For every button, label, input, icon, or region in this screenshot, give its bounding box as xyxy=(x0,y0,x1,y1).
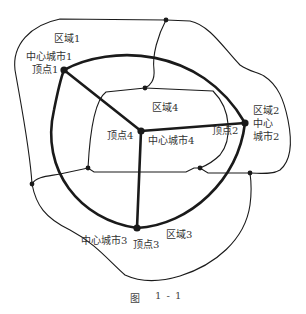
vertex-4-node xyxy=(137,127,144,134)
boundary-node-right xyxy=(248,171,253,176)
city-2-label-line1: 中心 xyxy=(253,118,273,130)
boundary-node-region4 xyxy=(143,86,148,91)
boundary-node-top xyxy=(164,18,169,23)
region-3-label: 区域3 xyxy=(166,229,192,241)
diagram-canvas xyxy=(0,0,306,314)
boundary-top-to-region4 xyxy=(145,20,166,88)
vertex-1-node xyxy=(60,66,67,73)
vertex-1-label: 顶点1 xyxy=(32,64,58,76)
boundary-node-lower-right xyxy=(198,166,203,171)
edge-vertex1-vertex4 xyxy=(64,70,141,131)
city-2-label-line2: 城市2 xyxy=(253,131,279,143)
boundary-node-left xyxy=(30,182,35,187)
city-3-label: 中心城市3 xyxy=(81,235,127,247)
figure-caption-label: 图 xyxy=(130,290,141,305)
region-4-label: 区域4 xyxy=(152,102,178,114)
vertex-2-node xyxy=(241,119,248,126)
edge-vertex4-vertex3 xyxy=(137,131,141,228)
vertex-3-node xyxy=(133,224,140,231)
region-1-label: 区域1 xyxy=(54,33,80,45)
figure-caption-number: 1 - 1 xyxy=(155,290,182,301)
city-1-label: 中心城市1 xyxy=(26,51,72,63)
region-2-label: 区域2 xyxy=(253,105,279,117)
boundary-node-lower-left xyxy=(86,166,91,171)
vertex-3-label: 顶点3 xyxy=(133,239,159,251)
vertex-4-label: 顶点4 xyxy=(107,130,133,142)
city-4-label: 中心城市4 xyxy=(148,135,194,147)
vertex-2-label: 顶点2 xyxy=(212,125,238,137)
